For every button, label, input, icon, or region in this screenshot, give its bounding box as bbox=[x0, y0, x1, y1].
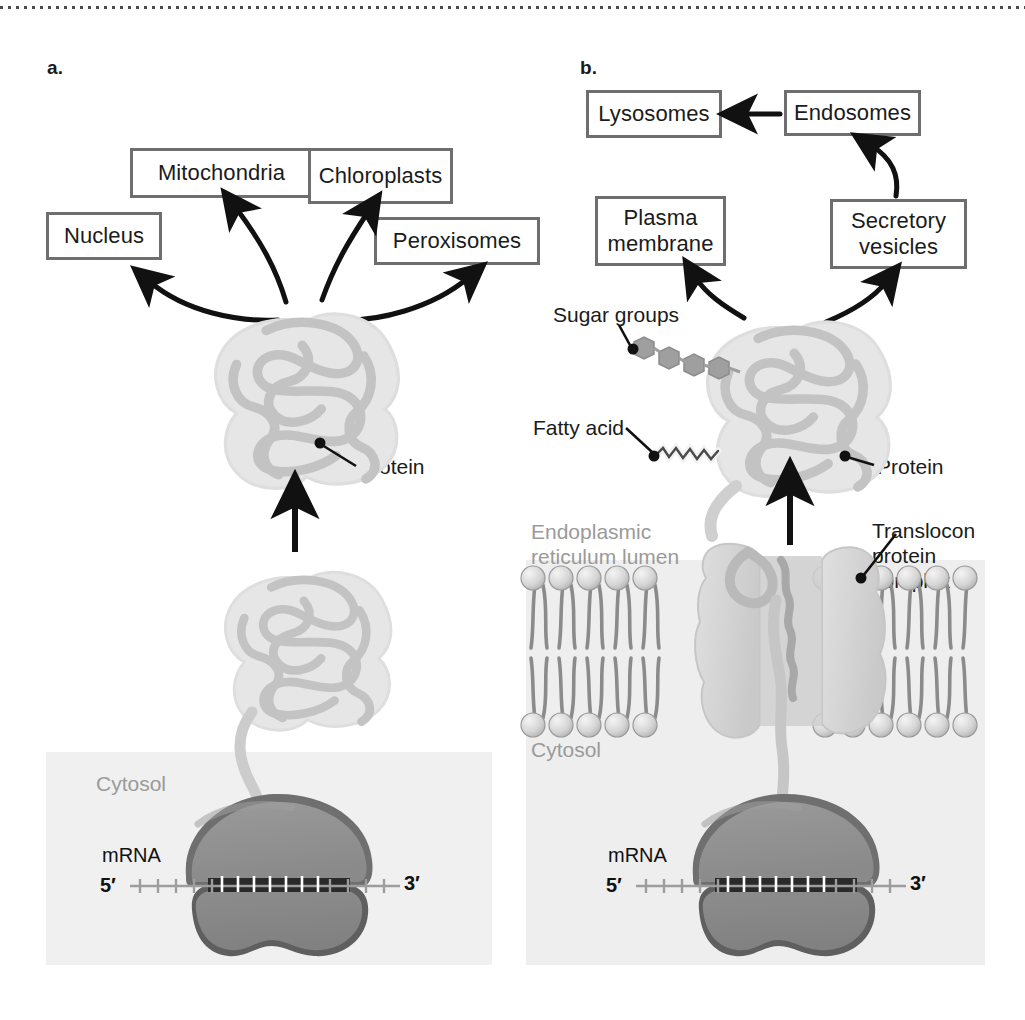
arrow-vesicles-to-endosomes bbox=[872, 146, 897, 196]
arrow-to-plasma-membrane bbox=[696, 278, 744, 318]
arrow-to-peroxisomes bbox=[338, 278, 468, 320]
arrow-to-chloroplasts bbox=[322, 212, 368, 300]
panel-a-nascent-protein bbox=[225, 572, 391, 730]
fatty-acid-leader bbox=[626, 428, 652, 452]
arrow-to-nucleus bbox=[150, 282, 278, 320]
panel-a-ribosome bbox=[186, 794, 373, 956]
panel-b-protein-dot bbox=[840, 451, 851, 462]
fatty-acid-dot bbox=[649, 451, 660, 462]
membrane-left bbox=[521, 566, 659, 737]
arrow-to-secretory-vesicles bbox=[826, 282, 886, 322]
panel-a-artwork bbox=[130, 208, 468, 956]
sugar-groups-leader bbox=[619, 325, 631, 347]
panel-b-ribosome bbox=[693, 794, 880, 956]
figure-root: a. Mitochondria Chloroplasts Nucleus Per… bbox=[0, 0, 1025, 1020]
translocon-right-lobe bbox=[822, 547, 886, 733]
arrow-to-mitochondria bbox=[236, 208, 286, 302]
panel-b-folded-protein bbox=[708, 322, 891, 496]
panel-a-folded-protein bbox=[216, 314, 399, 488]
diagram-artwork bbox=[0, 0, 1025, 1020]
lipid-heads-upper-left bbox=[521, 566, 657, 590]
lipid-heads-lower-left bbox=[521, 713, 657, 737]
panel-b-artwork bbox=[521, 114, 977, 956]
